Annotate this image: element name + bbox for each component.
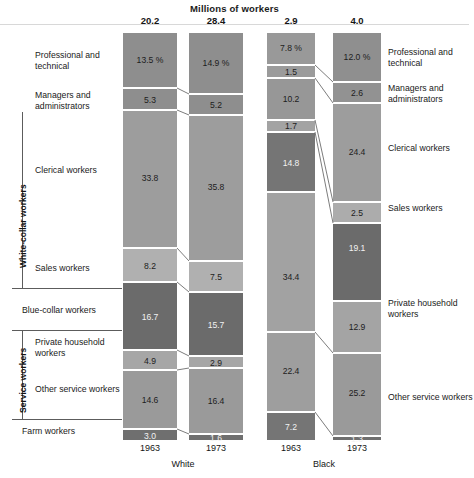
segment-value: 16.4 — [189, 397, 243, 406]
segment-value: 33.8 — [123, 174, 177, 183]
segment-clerical: 24.4 — [333, 103, 381, 202]
segment-value: 1.6 — [189, 434, 243, 443]
year-black-1963: 1963 — [264, 443, 318, 453]
label-other-service-left: Other service workers — [35, 384, 135, 395]
bar-white-1963: 13.5 % 5.3 33.8 8.2 16.7 4.9 14.6 3.0 — [123, 33, 177, 441]
segment-sales: 1.7 — [267, 120, 315, 132]
segment-value: 22.4 — [267, 367, 315, 376]
segment-value: 4.9 — [123, 357, 177, 366]
segment-other-service: 14.6 — [123, 370, 177, 429]
chart-title: Millions of workers — [0, 3, 469, 14]
segment-farm: 1.3 — [333, 436, 381, 441]
segment-professional: 13.5 % — [123, 33, 177, 88]
label-other-service-right: Other service workers — [388, 392, 474, 403]
label-clerical-left: Clerical workers — [35, 165, 125, 176]
segment-value: 35.8 — [189, 183, 243, 192]
segment-farm: 7.2 — [267, 412, 315, 441]
total-black-1963: 2.9 — [264, 15, 318, 26]
label-sales-right: Sales workers — [388, 203, 470, 214]
divider-service-top — [12, 330, 122, 331]
segment-professional: 7.8 % — [267, 33, 315, 65]
segment-value: 3.0 — [123, 432, 177, 441]
segment-farm: 3.0 — [123, 429, 177, 441]
segment-value: 7.2 — [267, 423, 315, 432]
bar-white-1973: 14.9 % 5.2 35.8 7.5 15.7 2.9 16.4 1.6 — [189, 33, 243, 441]
segment-value: 13.5 % — [123, 56, 177, 65]
segment-managers: 2.6 — [333, 82, 381, 103]
segment-value: 2.9 — [189, 359, 243, 368]
segment-professional: 14.9 % — [189, 33, 243, 94]
label-sales-left: Sales workers — [35, 263, 125, 274]
total-white-1963: 20.2 — [120, 15, 180, 26]
segment-clerical: 33.8 — [123, 110, 177, 248]
label-managers-left: Managers and administrators — [35, 90, 119, 112]
segment-other-service: 22.4 — [267, 332, 315, 412]
segment-blue-collar: 14.8 — [267, 132, 315, 192]
segment-value: 14.9 % — [189, 59, 243, 68]
segment-value: 12.0 % — [333, 53, 381, 62]
segment-managers: 5.2 — [189, 94, 243, 115]
segment-value: 14.6 — [123, 396, 177, 405]
segment-farm: 1.6 — [189, 434, 243, 441]
segment-sales: 2.5 — [333, 202, 381, 223]
segment-value: 12.9 — [333, 323, 381, 332]
segment-value: 14.8 — [267, 159, 315, 168]
segment-sales: 7.5 — [189, 261, 243, 292]
year-white-1963: 1963 — [120, 443, 180, 453]
year-black-1973: 1973 — [330, 443, 384, 453]
segment-other-service: 25.2 — [333, 353, 381, 436]
segment-value: 25.2 — [333, 389, 381, 398]
label-professional-right: Professional and technical — [388, 47, 470, 69]
total-white-1973: 28.4 — [186, 15, 246, 26]
year-white-1973: 1973 — [186, 443, 246, 453]
segment-value: 15.7 — [189, 321, 243, 330]
segment-clerical: 35.8 — [189, 115, 243, 261]
group-black: Black — [297, 459, 351, 469]
divider-service-bottom — [12, 419, 122, 420]
segment-managers: 1.5 — [267, 65, 315, 78]
segment-other-service: 16.4 — [189, 368, 243, 434]
segment-blue-collar: 19.1 — [333, 223, 381, 301]
segment-private-household: 4.9 — [123, 350, 177, 370]
segment-blue-collar: 16.7 — [123, 282, 177, 350]
segment-managers: 5.3 — [123, 88, 177, 110]
segment-value: 5.3 — [123, 96, 177, 105]
bracket-service: Service workers — [18, 348, 28, 413]
segment-value: 7.8 % — [267, 44, 315, 53]
segment-value: 34.4 — [267, 273, 315, 282]
group-white: White — [153, 459, 213, 469]
divider-white-collar-bottom — [12, 288, 122, 289]
total-black-1973: 4.0 — [330, 15, 384, 26]
segment-value: 10.2 — [267, 95, 315, 104]
segment-value: 1.5 — [267, 68, 315, 77]
segment-professional: 12.0 % — [333, 33, 381, 82]
label-clerical-right: Clerical workers — [388, 143, 470, 154]
bar-black-1963: 7.8 % 1.5 10.2 1.7 14.8 34.4 22.4 7.2 — [267, 33, 315, 441]
segment-value: 24.4 — [333, 148, 381, 157]
label-managers-right: Managers and administrators — [388, 83, 470, 105]
label-professional-left: Professional and technical — [35, 50, 119, 72]
label-farm-left: Farm workers — [22, 426, 112, 437]
segment-value: 7.5 — [189, 273, 243, 282]
segment-private-household: 34.4 — [267, 192, 315, 332]
segment-value: 19.1 — [333, 244, 381, 253]
segment-clerical: 10.2 — [267, 78, 315, 120]
segment-private-household: 12.9 — [333, 301, 381, 353]
bar-black-1973: 12.0 % 2.6 24.4 2.5 19.1 12.9 25.2 1.3 — [333, 33, 381, 441]
segment-value: 1.7 — [267, 122, 315, 131]
segment-value: 2.5 — [333, 209, 381, 218]
bracket-white-collar: White-collar workers — [18, 184, 28, 268]
segment-private-household: 2.9 — [189, 356, 243, 368]
label-private-household-right: Private household workers — [388, 298, 470, 320]
segment-value: 16.7 — [123, 313, 177, 322]
segment-value: 5.2 — [189, 101, 243, 110]
segment-value: 8.2 — [123, 262, 177, 271]
label-blue-collar-left: Blue-collar workers — [22, 305, 122, 316]
label-private-household-left: Private household workers — [35, 337, 123, 359]
segment-value: 2.6 — [333, 89, 381, 98]
segment-blue-collar: 15.7 — [189, 292, 243, 356]
segment-sales: 8.2 — [123, 248, 177, 282]
